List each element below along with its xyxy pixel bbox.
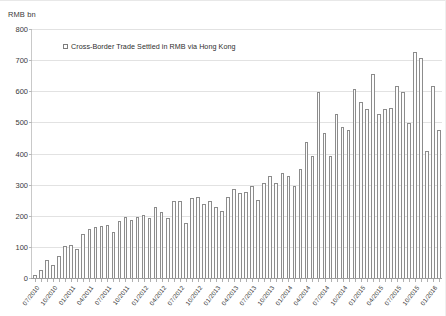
x-axis-tick-mark <box>373 279 374 282</box>
x-axis-tick-label: 10/2010 <box>39 284 59 306</box>
x-axis-tick-label: 01/2013 <box>202 284 222 306</box>
bar <box>287 176 291 279</box>
bar <box>208 201 212 279</box>
x-axis-tick-mark <box>421 279 422 282</box>
bar <box>347 130 351 279</box>
x-axis-tick-mark <box>125 279 126 282</box>
bar <box>383 109 387 279</box>
x-axis-tick-mark <box>89 279 90 282</box>
bar <box>305 142 309 279</box>
bar <box>353 89 357 279</box>
bar <box>88 229 92 279</box>
x-axis-tick-mark <box>95 279 96 282</box>
bar <box>365 109 369 279</box>
y-axis-tick-label: 800 <box>15 25 28 34</box>
bar <box>57 256 61 279</box>
bar <box>299 169 303 279</box>
x-axis-tick-mark <box>427 279 428 282</box>
bar <box>293 186 297 279</box>
bar <box>425 151 429 279</box>
x-axis-tick-mark <box>180 279 181 282</box>
x-axis-tick-mark <box>113 279 114 282</box>
x-axis-tick-mark <box>65 279 66 282</box>
x-axis-tick-mark <box>186 279 187 282</box>
x-axis-tick-label: 10/2011 <box>112 284 131 306</box>
bar <box>244 192 248 279</box>
x-axis-tick-mark <box>246 279 247 282</box>
x-axis-tick-mark <box>385 279 386 282</box>
bar <box>268 176 272 279</box>
x-axis-tick-label: 04/2015 <box>365 284 385 306</box>
bar <box>166 218 170 279</box>
bar <box>106 225 110 279</box>
x-axis-tick-mark <box>343 279 344 282</box>
x-axis-tick-mark <box>119 279 120 282</box>
x-axis-tick-mark <box>325 279 326 282</box>
x-axis-tick-mark <box>228 279 229 282</box>
bar <box>407 123 411 279</box>
bar <box>45 260 49 279</box>
x-axis-tick-mark <box>101 279 102 282</box>
y-axis-title: RMB bn <box>8 10 36 19</box>
bar <box>431 86 435 279</box>
x-axis-tick-mark <box>331 279 332 282</box>
bar <box>160 212 164 279</box>
x-axis-tick-mark <box>83 279 84 282</box>
y-axis-tick-label: 600 <box>15 87 28 96</box>
x-axis-tick-mark <box>270 279 271 282</box>
bar <box>69 245 73 279</box>
x-axis-tick-label: 10/2015 <box>401 284 421 306</box>
bar <box>94 227 98 279</box>
x-axis-tick-mark <box>349 279 350 282</box>
x-axis-tick-mark <box>318 279 319 282</box>
bar <box>75 249 79 279</box>
bar <box>148 218 152 279</box>
x-axis-tick-mark <box>150 279 151 282</box>
x-axis-tick-label: 01/2012 <box>129 284 149 306</box>
x-axis-tick-mark <box>439 279 440 282</box>
x-axis-tick-mark <box>71 279 72 282</box>
x-axis-tick-label: 01/2011 <box>57 284 76 306</box>
x-axis-tick-mark <box>168 279 169 282</box>
x-axis-tick-mark <box>132 279 133 282</box>
x-axis-tick-mark <box>47 279 48 282</box>
bar <box>377 114 381 279</box>
bar <box>220 211 224 279</box>
x-axis-tick-label: 01/2014 <box>274 284 294 306</box>
x-axis-tick-mark <box>162 279 163 282</box>
x-axis-tick-mark <box>144 279 145 282</box>
bar <box>190 198 194 279</box>
bar-chart: RMB bn Cross-Border Trade Settled in RMB… <box>0 0 446 316</box>
x-axis-tick-mark <box>361 279 362 282</box>
bar <box>214 207 218 279</box>
x-axis-tick-mark <box>77 279 78 282</box>
bar <box>63 246 67 279</box>
bar <box>172 201 176 279</box>
x-axis-tick-mark <box>312 279 313 282</box>
x-axis-tick-label: 10/2014 <box>328 284 348 306</box>
x-axis-tick-mark <box>240 279 241 282</box>
x-axis-tick-mark <box>258 279 259 282</box>
x-axis-tick-label: 10/2013 <box>256 284 276 306</box>
x-axis-tick-mark <box>216 279 217 282</box>
bar <box>419 58 423 279</box>
x-axis-tick-mark <box>391 279 392 282</box>
bar <box>118 221 122 279</box>
bar <box>256 200 260 279</box>
x-axis-tick-mark <box>156 279 157 282</box>
bar <box>413 52 417 279</box>
x-axis-tick-mark <box>204 279 205 282</box>
bar <box>124 217 128 279</box>
bar <box>238 193 242 279</box>
bar <box>437 130 441 279</box>
x-axis-tick-mark <box>264 279 265 282</box>
x-axis-tick-mark <box>294 279 295 282</box>
bar <box>359 102 363 279</box>
y-axis-tick-label: 400 <box>15 149 28 158</box>
x-axis-tick-mark <box>355 279 356 282</box>
x-axis-tick-label: 07/2013 <box>238 284 258 306</box>
bar <box>329 156 333 279</box>
x-axis-tick-label: 07/2010 <box>21 284 41 306</box>
x-axis-tick-mark <box>222 279 223 282</box>
x-axis-tick-label: 01/2016 <box>419 284 439 306</box>
